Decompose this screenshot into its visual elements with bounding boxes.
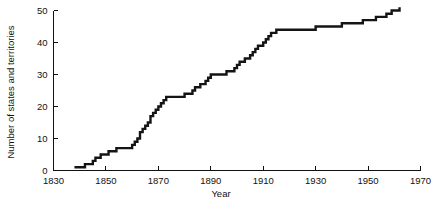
- y-tick-label-10: 10: [37, 133, 48, 144]
- axis-spines: [54, 11, 421, 171]
- y-tick-labels: 01020304050: [37, 5, 48, 176]
- chart-canvas: 18301850187018901910193019501970 0102030…: [0, 0, 443, 204]
- chart-figure: 18301850187018901910193019501970 0102030…: [0, 0, 443, 204]
- y-tick-label-30: 30: [37, 69, 48, 80]
- y-tick-label-50: 50: [37, 5, 48, 16]
- y-axis-title: Number of states and territories: [5, 25, 16, 158]
- x-tick-label-1850: 1850: [95, 175, 116, 186]
- x-tick-label-1830: 1830: [43, 175, 64, 186]
- series-line-0: [74, 7, 399, 167]
- x-tick-label-1910: 1910: [253, 175, 274, 186]
- x-axis-title: Year: [211, 188, 230, 199]
- axes: [54, 11, 421, 171]
- y-tick-label-0: 0: [42, 165, 47, 176]
- x-tick-label-1930: 1930: [305, 175, 326, 186]
- x-tick-label-1970: 1970: [410, 175, 431, 186]
- x-tick-label-1870: 1870: [148, 175, 169, 186]
- x-tick-label-1950: 1950: [358, 175, 379, 186]
- tick-marks: [54, 11, 421, 171]
- y-tick-label-20: 20: [37, 101, 48, 112]
- x-tick-labels: 18301850187018901910193019501970: [43, 175, 431, 186]
- y-tick-label-40: 40: [37, 37, 48, 48]
- data-series: [74, 7, 399, 167]
- x-tick-label-1890: 1890: [200, 175, 221, 186]
